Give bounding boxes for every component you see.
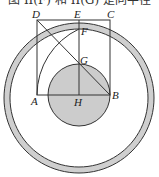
label-a: A	[30, 95, 38, 107]
label-d: D	[31, 8, 40, 20]
label-h: H	[73, 96, 83, 108]
label-g: G	[80, 54, 88, 66]
label-e: E	[73, 8, 81, 20]
label-f: F	[80, 25, 88, 37]
label-b: B	[112, 89, 119, 101]
label-c: C	[107, 8, 115, 20]
geometry-figure: D E C F G A H B	[0, 0, 159, 177]
